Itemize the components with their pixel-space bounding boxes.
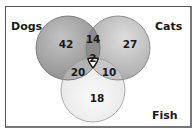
fish-only-count: 18	[90, 92, 105, 104]
dogs-cats-count: 14	[86, 33, 101, 45]
dogs-fish-count: 20	[71, 66, 86, 78]
cats-label: Cats	[155, 20, 183, 33]
cats-fish-count: 10	[102, 66, 117, 78]
fish-label: Fish	[152, 109, 178, 122]
venn-diagram: Dogs Cats Fish 42 27 14 2 20 10 18	[0, 0, 195, 131]
dogs-only-count: 42	[59, 38, 74, 50]
all-three-count: 2	[89, 52, 96, 64]
cats-only-count: 27	[123, 38, 138, 50]
dogs-label: Dogs	[11, 20, 43, 33]
